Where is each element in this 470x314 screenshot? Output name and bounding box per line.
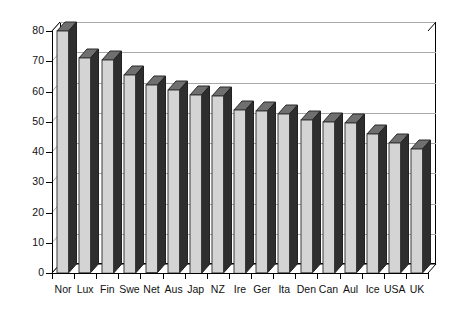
x-tick xyxy=(207,274,208,279)
x-tick-label-swe: Swe xyxy=(118,283,140,295)
bar-front-face xyxy=(278,114,290,273)
x-tick-label-nor: Nor xyxy=(52,283,74,295)
bar-front-face xyxy=(168,90,180,273)
bar-3d-shape xyxy=(389,134,411,275)
x-tick-label-den: Den xyxy=(295,283,317,295)
bar-nz xyxy=(212,87,224,273)
y-tick-label: 60 xyxy=(0,86,44,97)
y-tick xyxy=(46,243,52,244)
x-tick-label-ger: Ger xyxy=(251,283,273,295)
bar-3d-shape xyxy=(124,66,146,275)
bar-3d-shape xyxy=(301,111,323,275)
bar-jap xyxy=(190,86,202,273)
bar-3d-shape xyxy=(168,81,190,275)
bar-3d-shape xyxy=(234,101,256,275)
bar-front-face xyxy=(323,122,335,273)
bar-side-face xyxy=(423,140,431,273)
x-tick xyxy=(273,274,274,279)
x-tick xyxy=(384,274,385,279)
x-tick xyxy=(340,274,341,279)
bar-front-face xyxy=(256,111,268,273)
x-tick xyxy=(163,274,164,279)
bar-3d-shape xyxy=(190,86,212,275)
x-tick-label-fin: Fin xyxy=(96,283,118,295)
x-tick-label-can: Can xyxy=(317,283,339,295)
bar-uk xyxy=(411,140,423,273)
bar-side-face xyxy=(69,22,77,273)
x-tick-label-usa: USA xyxy=(384,283,406,295)
y-tick xyxy=(46,152,52,153)
bar-ger xyxy=(256,102,268,273)
bar-front-face xyxy=(146,85,158,273)
bar-side-face xyxy=(312,111,320,273)
bar-ice xyxy=(367,125,379,273)
bar-front-face xyxy=(102,60,114,273)
y-tick-label: 30 xyxy=(0,176,44,187)
x-tick xyxy=(140,274,141,279)
y-tick xyxy=(46,92,52,93)
x-tick xyxy=(52,274,53,279)
y-tick-label: 10 xyxy=(0,237,44,248)
x-tick-label-ita: Ita xyxy=(273,283,295,295)
bar-front-face xyxy=(79,58,91,273)
y-tick-label: 80 xyxy=(0,25,44,36)
y-tick-label: 0 xyxy=(0,267,44,278)
y-tick xyxy=(46,31,52,32)
x-tick xyxy=(96,274,97,279)
x-tick-label-net: Net xyxy=(140,283,162,295)
bar-3d-shape xyxy=(411,140,433,275)
bar-nor xyxy=(57,22,69,273)
bar-3d-shape xyxy=(146,76,168,275)
x-tick xyxy=(74,274,75,279)
bar-net xyxy=(146,76,158,273)
bar-fin xyxy=(102,51,114,273)
bar-swe xyxy=(124,66,136,273)
bar-3d-shape xyxy=(57,22,79,275)
bar-side-face xyxy=(378,125,386,273)
x-tick xyxy=(185,274,186,279)
bar-ita xyxy=(278,105,290,273)
bar-side-face xyxy=(268,102,276,273)
bar-side-face xyxy=(224,87,232,273)
bar-side-face xyxy=(246,101,254,273)
x-tick xyxy=(317,274,318,279)
bar-front-face xyxy=(301,120,313,273)
x-tick-label-nz: NZ xyxy=(207,283,229,295)
bar-den xyxy=(301,111,313,273)
bar-3d-shape xyxy=(256,102,278,275)
x-tick xyxy=(295,274,296,279)
bar-front-face xyxy=(345,123,357,273)
y-axis-line xyxy=(52,31,53,274)
bar-3d-shape xyxy=(278,105,300,275)
x-tick-label-aus: Aus xyxy=(163,283,185,295)
x-tick xyxy=(251,274,252,279)
bar-front-face xyxy=(190,95,202,273)
x-tick xyxy=(118,274,119,279)
bar-can xyxy=(323,113,335,273)
x-tick xyxy=(428,274,429,279)
bar-3d-shape xyxy=(345,114,367,275)
x-tick xyxy=(362,274,363,279)
bar-side-face xyxy=(91,49,99,273)
bar-front-face xyxy=(389,143,401,273)
bar-3d-shape xyxy=(212,87,234,275)
bar-side-face xyxy=(356,114,364,273)
x-axis-line xyxy=(52,273,429,274)
y-tick-label: 70 xyxy=(0,55,44,66)
bar-side-face xyxy=(401,134,409,273)
y-tick xyxy=(46,61,52,62)
x-tick-label-jap: Jap xyxy=(185,283,207,295)
x-tick-label-ice: Ice xyxy=(362,283,384,295)
bar-side-face xyxy=(290,105,298,273)
y-tick-label: 50 xyxy=(0,116,44,127)
x-tick xyxy=(406,274,407,279)
bar-chart: 01020304050607080 NorLuxFinSweNetAusJapN… xyxy=(0,0,470,314)
y-tick-label: 40 xyxy=(0,146,44,157)
bar-3d-shape xyxy=(323,113,345,275)
bar-side-face xyxy=(179,81,187,273)
bar-3d-shape xyxy=(102,51,124,275)
bar-front-face xyxy=(124,75,136,273)
bar-series xyxy=(0,0,470,314)
bar-side-face xyxy=(202,86,210,273)
bar-front-face xyxy=(212,96,224,273)
